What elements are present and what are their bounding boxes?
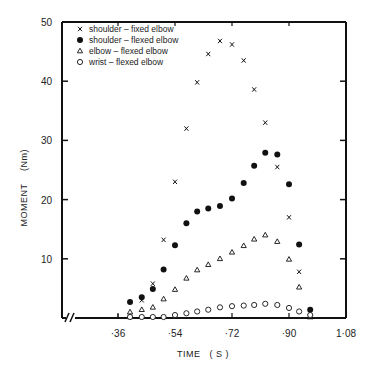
open-circle-marker <box>241 303 246 308</box>
x-marker <box>78 27 82 31</box>
legend-item: shoulder – fixed elbow <box>78 24 174 34</box>
triangle-marker <box>184 276 189 281</box>
triangle-marker <box>139 307 144 312</box>
legend-item: wrist – flexed elbow <box>77 57 164 67</box>
triangle-marker <box>195 267 200 272</box>
filled-circle-marker <box>161 266 167 272</box>
triangle-marker <box>161 296 166 301</box>
triangle-marker <box>217 256 222 261</box>
x-tick-label: ·72 <box>225 328 240 339</box>
filled-circle-marker <box>286 181 292 187</box>
x-axis-title: TIME ( S ) <box>177 349 229 359</box>
open-circle-marker <box>308 312 313 317</box>
filled-circle-marker <box>262 150 268 156</box>
legend-label: wrist – flexed elbow <box>88 57 164 67</box>
y-axis-title: MOMENT <box>19 184 29 227</box>
legend-item: elbow – flexed elbow <box>77 46 168 56</box>
triangle-marker <box>297 284 302 289</box>
filled-circle-marker <box>205 205 211 211</box>
x-marker <box>218 39 222 43</box>
x-marker <box>242 58 246 62</box>
legend-label: elbow – flexed elbow <box>89 46 169 56</box>
triangle-marker <box>229 249 234 254</box>
x-marker <box>297 270 301 274</box>
filled-circle-marker <box>139 294 145 300</box>
x-marker <box>195 80 199 84</box>
triangle-marker <box>252 236 257 241</box>
open-circle-marker <box>77 59 82 64</box>
open-circle-marker <box>206 307 211 312</box>
triangle-marker <box>286 257 291 262</box>
filled-circle-marker <box>274 152 280 158</box>
filled-circle-marker <box>296 242 302 248</box>
open-circle-marker <box>286 305 291 310</box>
y-tick-label: 40 <box>41 76 53 87</box>
triangle-marker <box>263 232 268 237</box>
filled-circle-marker <box>241 180 247 186</box>
x-marker <box>184 126 188 130</box>
open-circle-marker <box>195 309 200 314</box>
triangle-marker <box>150 305 155 310</box>
open-circle-marker <box>172 312 177 317</box>
filled-circle-marker <box>307 307 313 313</box>
x-marker <box>162 238 166 242</box>
x-marker <box>230 42 234 46</box>
triangle-marker <box>77 48 82 53</box>
triangle-marker <box>127 309 132 314</box>
filled-circle-marker <box>251 163 257 169</box>
open-circle-marker <box>127 314 132 319</box>
series-wrist-flexed-elbow <box>127 301 312 319</box>
open-circle-marker <box>150 314 155 319</box>
triangle-marker <box>241 243 246 248</box>
x-tick-label: ·36 <box>111 328 126 339</box>
y-tick-label: 50 <box>41 17 53 28</box>
x-marker <box>151 281 155 285</box>
series-shoulder-flexed-elbow <box>127 150 313 313</box>
triangle-marker <box>172 287 177 292</box>
x-marker <box>252 87 256 91</box>
triangle-marker <box>275 239 280 244</box>
open-circle-marker <box>229 304 234 309</box>
open-circle-marker <box>275 302 280 307</box>
open-circle-marker <box>161 314 166 319</box>
x-marker <box>263 120 267 124</box>
triangle-marker <box>206 262 211 267</box>
legend-label: shoulder – fixed elbow <box>89 24 174 34</box>
moment-time-chart: 1020304050·36·54·72·901·08 TIME ( S ) MO… <box>0 0 368 375</box>
open-circle-marker <box>139 314 144 319</box>
x-tick-label: ·54 <box>168 328 183 339</box>
open-circle-marker <box>184 311 189 316</box>
filled-circle-marker <box>172 242 178 248</box>
x-marker <box>287 215 291 219</box>
y-axis-unit: (Nm) <box>19 149 29 171</box>
y-tick-label: 10 <box>41 254 53 265</box>
filled-circle-marker <box>150 286 156 292</box>
x-tick-label: ·90 <box>282 328 297 339</box>
axis-break-icon <box>65 313 74 322</box>
open-circle-marker <box>263 301 268 306</box>
open-circle-marker <box>252 302 257 307</box>
filled-circle-marker <box>229 195 235 201</box>
filled-circle-marker <box>77 37 83 43</box>
open-circle-marker <box>217 305 222 310</box>
y-tick-label: 30 <box>41 135 53 146</box>
legend: shoulder – fixed elbowshoulder – flexed … <box>77 24 179 67</box>
filled-circle-marker <box>183 220 189 226</box>
x-marker <box>275 165 279 169</box>
legend-label: shoulder – flexed elbow <box>89 35 179 45</box>
y-tick-label: 20 <box>41 195 53 206</box>
open-circle-marker <box>297 309 302 314</box>
legend-item: shoulder – flexed elbow <box>77 35 179 45</box>
filled-circle-marker <box>217 203 223 209</box>
filled-circle-marker <box>194 208 200 214</box>
x-marker <box>173 180 177 184</box>
filled-circle-marker <box>127 299 133 305</box>
series-shoulder-fixed-elbow <box>128 39 312 319</box>
x-tick-label: 1·08 <box>336 328 356 339</box>
x-marker <box>206 52 210 56</box>
data-points <box>127 39 313 320</box>
